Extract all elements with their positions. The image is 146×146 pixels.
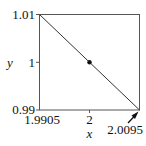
- x-tick-label-left: 1.9905: [24, 112, 60, 127]
- y-tick-label-mid: 1: [29, 55, 36, 70]
- x-tick-label-right: 2.0095: [107, 122, 143, 137]
- line-chart: 1.01 1 0.99 y 1.9905 2 x 2.0095: [0, 0, 146, 146]
- y-axis-label: y: [5, 55, 13, 70]
- y-tick-label-top: 1.01: [12, 7, 35, 22]
- center-point: [87, 60, 91, 64]
- x-tick-label-mid: 2: [86, 112, 93, 127]
- x-axis-label: x: [86, 126, 93, 141]
